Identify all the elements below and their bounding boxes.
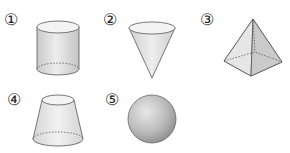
shapes-canvas [0,0,290,153]
frustum-icon [33,95,83,146]
cylinder-icon [37,21,79,75]
cone-icon [129,22,175,78]
square-pyramid-icon [224,19,282,76]
sphere-icon [128,95,176,143]
